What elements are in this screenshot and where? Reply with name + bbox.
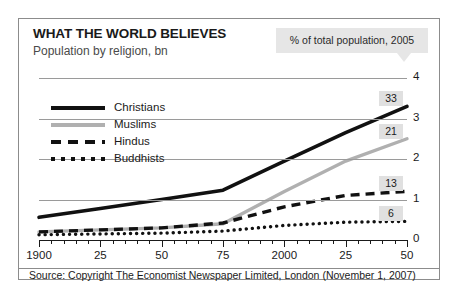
y-axis-tick-label: 4 [413, 70, 431, 82]
x-tick-minor [51, 240, 52, 244]
legend-label: Buddhists [114, 150, 165, 167]
x-tick-minor [309, 240, 310, 244]
x-tick-minor [321, 240, 322, 244]
x-tick-minor [235, 240, 236, 244]
x-axis-tick-label: 75 [203, 249, 243, 261]
x-tick-minor [248, 240, 249, 244]
legend-swatch-icon [51, 140, 105, 144]
end-value-badge: 6 [379, 206, 403, 221]
legend-item-christians[interactable]: Christians [51, 99, 201, 116]
chart-subtitle: Population by religion, bn [33, 44, 168, 58]
legend-swatch-icon [51, 157, 105, 161]
x-tick-minor [297, 240, 298, 244]
y-axis-tick-label: 1 [413, 192, 431, 204]
end-value-badge: 33 [379, 91, 403, 106]
y-axis-tick-label: 0 [413, 232, 431, 244]
page-title: WHAT THE WORLD BELIEVES [33, 26, 226, 41]
chart-figure: WHAT THE WORLD BELIEVES Population by re… [18, 18, 440, 280]
series-line-hindus [39, 191, 407, 232]
x-tick-minor [88, 240, 89, 244]
legend-swatch-icon [51, 106, 105, 110]
x-tick-minor [370, 240, 371, 244]
legend-item-buddhists[interactable]: Buddhists [51, 150, 201, 167]
gridline [39, 200, 407, 201]
x-tick-minor [272, 240, 273, 244]
x-tick-minor [137, 240, 138, 244]
callout-label: % of total population, 2005 [276, 28, 428, 53]
x-tick-minor [64, 240, 65, 244]
y-axis-tick-label: 3 [413, 111, 431, 123]
legend-swatch-icon [51, 123, 105, 127]
x-tick-minor [382, 240, 383, 244]
x-axis-tick-label: 50 [387, 249, 427, 261]
x-tick-major [223, 240, 224, 247]
x-tick-minor [260, 240, 261, 244]
x-tick-minor [125, 240, 126, 244]
x-tick-minor [76, 240, 77, 244]
x-tick-minor [395, 240, 396, 244]
legend-label: Muslims [114, 116, 156, 133]
legend-item-hindus[interactable]: Hindus [51, 133, 201, 150]
x-tick-minor [113, 240, 114, 244]
legend-label: Christians [114, 99, 165, 116]
callout-box: % of total population, 2005 [276, 28, 428, 53]
legend-label: Hindus [114, 133, 150, 150]
x-tick-minor [198, 240, 199, 244]
x-axis-tick-label: 2000 [264, 249, 304, 261]
x-axis-tick-label: 25 [326, 249, 366, 261]
x-tick-major [407, 240, 408, 247]
x-tick-major [284, 240, 285, 247]
gridline [39, 78, 407, 79]
end-value-badge: 13 [379, 176, 403, 191]
x-tick-major [100, 240, 101, 247]
x-tick-minor [149, 240, 150, 244]
x-tick-minor [174, 240, 175, 244]
x-tick-minor [333, 240, 334, 244]
x-axis-tick-label: 1900 [19, 249, 59, 261]
source-note: Source: Copyright The Economist Newspape… [29, 270, 416, 281]
legend-item-muslims[interactable]: Muslims [51, 116, 201, 133]
x-tick-major [162, 240, 163, 247]
x-tick-major [346, 240, 347, 247]
x-tick-minor [211, 240, 212, 244]
x-axis-tick-label: 50 [142, 249, 182, 261]
x-tick-major [39, 240, 40, 247]
y-axis-tick-label: 2 [413, 151, 431, 163]
chart-header: WHAT THE WORLD BELIEVES Population by re… [19, 19, 439, 71]
x-tick-minor [358, 240, 359, 244]
chart-legend: ChristiansMuslimsHindusBuddhists [51, 99, 201, 167]
end-value-badge: 21 [379, 124, 403, 139]
x-tick-minor [186, 240, 187, 244]
callout-tail-icon [397, 53, 411, 62]
x-axis-tick-label: 25 [80, 249, 120, 261]
